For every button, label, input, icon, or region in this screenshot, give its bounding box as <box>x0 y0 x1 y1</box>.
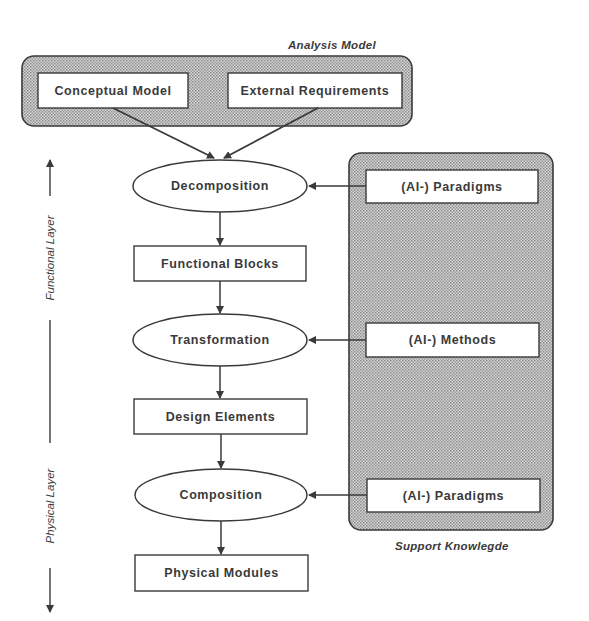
conceptual-model-label: Conceptual Model <box>38 73 188 108</box>
ai-paradigms-label-bottom: (AI-) Paradigms <box>367 479 540 512</box>
transformation-label: Transformation <box>133 326 307 354</box>
functional-layer-label: Functional Layer <box>42 208 58 308</box>
ai-methods-label: (AI-) Methods <box>366 323 539 357</box>
external-requirements-label: External Requirements <box>228 73 402 108</box>
support-knowledge-caption: Support Knowlegde <box>395 540 509 552</box>
analysis-model-caption: Analysis Model <box>288 39 376 51</box>
design-elements-label: Design Elements <box>134 399 307 434</box>
ai-paradigms-label-top: (AI-) Paradigms <box>366 170 538 203</box>
physical-modules-label: Physical Modules <box>135 555 308 591</box>
composition-label: Composition <box>135 481 307 509</box>
functional-blocks-label: Functional Blocks <box>134 246 306 281</box>
physical-layer-label: Physical Layer <box>42 456 58 556</box>
decomposition-label: Decomposition <box>133 172 307 200</box>
